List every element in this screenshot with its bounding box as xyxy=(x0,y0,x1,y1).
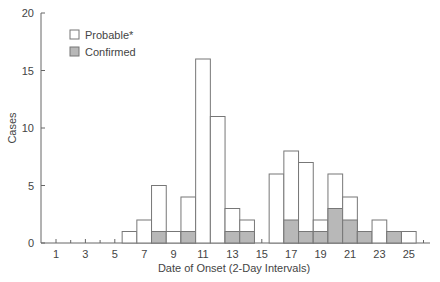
bar-probable xyxy=(196,59,211,243)
x-tick-label: 13 xyxy=(226,248,238,260)
x-axis-title: Date of Onset (2-Day Intervals) xyxy=(158,262,310,274)
bar-probable xyxy=(210,117,225,244)
bar-confirmed xyxy=(387,232,402,244)
bar-confirmed xyxy=(299,232,314,244)
x-tick-label: 7 xyxy=(141,248,147,260)
bar-probable xyxy=(122,232,137,244)
bar-confirmed xyxy=(152,232,167,244)
legend: Probable* Confirmed xyxy=(70,29,136,58)
bar-probable xyxy=(401,232,416,244)
x-tick-label: 3 xyxy=(82,248,88,260)
y-tick-label: 20 xyxy=(22,7,34,19)
bar-probable xyxy=(299,163,314,244)
legend-label-confirmed: Confirmed xyxy=(85,46,136,58)
bar-confirmed xyxy=(284,220,299,243)
y-axis: 05101520 xyxy=(22,7,45,249)
bar-confirmed xyxy=(181,232,196,244)
bar-confirmed xyxy=(357,232,372,244)
y-axis-title: Cases xyxy=(6,112,18,144)
bar-probable xyxy=(372,220,387,243)
bar-confirmed xyxy=(328,209,343,244)
legend-swatch-probable xyxy=(70,30,79,39)
x-tick-label: 19 xyxy=(314,248,326,260)
x-tick-label: 23 xyxy=(373,248,385,260)
legend-label-probable: Probable* xyxy=(85,29,134,41)
x-tick-label: 5 xyxy=(112,248,118,260)
x-tick-label: 15 xyxy=(256,248,268,260)
y-tick-label: 10 xyxy=(22,122,34,134)
x-tick-label: 9 xyxy=(171,248,177,260)
bar-confirmed xyxy=(240,232,255,244)
y-tick-label: 5 xyxy=(28,180,34,192)
x-tick-label: 21 xyxy=(344,248,356,260)
y-tick-label: 0 xyxy=(28,237,34,249)
x-tick-label: 25 xyxy=(403,248,415,260)
bar-probable xyxy=(137,220,152,243)
x-tick-label: 1 xyxy=(53,248,59,260)
x-tick-label: 17 xyxy=(285,248,297,260)
x-tick-label: 11 xyxy=(197,248,208,260)
bar-confirmed xyxy=(343,220,358,243)
legend-swatch-confirmed xyxy=(70,47,79,56)
bar-probable xyxy=(166,232,181,244)
bars xyxy=(122,59,416,243)
bar-probable xyxy=(269,174,284,243)
y-tick-label: 15 xyxy=(22,65,34,77)
bar-confirmed xyxy=(225,232,240,244)
epidemic-curve-chart: 05101520 135791113151719212325 Probable*… xyxy=(0,0,440,282)
bar-confirmed xyxy=(313,232,328,244)
